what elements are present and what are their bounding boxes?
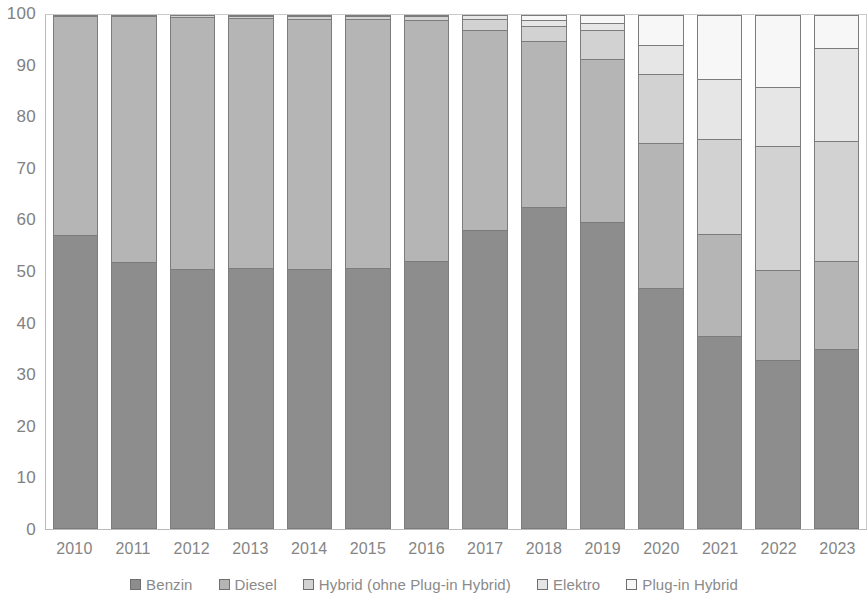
bar-segment[interactable] [170, 269, 216, 529]
bar-column[interactable] [638, 15, 684, 529]
bar-column[interactable] [404, 15, 450, 529]
bar-column[interactable] [228, 15, 274, 529]
bar-segment[interactable] [462, 30, 508, 230]
bar-segment[interactable] [697, 336, 743, 529]
stacked-bar[interactable] [521, 15, 567, 529]
bar-segment[interactable] [755, 87, 801, 147]
bar-segment[interactable] [53, 16, 99, 235]
bar-segment[interactable] [287, 269, 333, 529]
bar-segment[interactable] [521, 207, 567, 529]
bar-segment[interactable] [755, 146, 801, 270]
bar-segment[interactable] [697, 79, 743, 139]
legend-item[interactable]: Benzin [130, 576, 192, 593]
legend-item[interactable]: Diesel [219, 576, 277, 593]
bar-segment[interactable] [345, 19, 391, 268]
legend-swatch-icon [303, 579, 314, 590]
legend-item[interactable]: Elektro [537, 576, 600, 593]
bar-segment[interactable] [638, 74, 684, 143]
legend-item-label: Hybrid (ohne Plug-in Hybrid) [319, 576, 511, 593]
stacked-bar-chart: 0102030405060708090100 20102011201220132… [0, 0, 868, 600]
x-axis-tick-label: 2012 [169, 536, 215, 558]
bar-segment[interactable] [697, 139, 743, 234]
bar-segment[interactable] [111, 262, 157, 529]
bar-segment[interactable] [638, 15, 684, 45]
bar-segment[interactable] [755, 270, 801, 360]
plot-area [45, 14, 867, 530]
bar-segment[interactable] [814, 15, 860, 48]
bar-segment[interactable] [580, 30, 626, 58]
bar-segment[interactable] [462, 230, 508, 529]
bar-segment[interactable] [287, 19, 333, 270]
stacked-bar[interactable] [580, 15, 626, 529]
stacked-bar[interactable] [111, 15, 157, 529]
stacked-bar[interactable] [814, 15, 860, 529]
bar-segment[interactable] [53, 235, 99, 529]
y-axis-tick-label: 10 [16, 468, 36, 488]
bar-segment[interactable] [462, 19, 508, 30]
bar-segment[interactable] [345, 268, 391, 529]
bar-segment[interactable] [521, 41, 567, 208]
x-axis-tick-label: 2020 [639, 536, 685, 558]
y-axis-tick-label: 80 [16, 107, 36, 127]
stacked-bar[interactable] [287, 15, 333, 529]
x-axis: 2010201120122013201420152016201720182019… [45, 536, 867, 564]
bar-column[interactable] [814, 15, 860, 529]
y-axis-tick-label: 0 [26, 520, 36, 540]
y-axis-tick-label: 60 [16, 210, 36, 230]
bar-segment[interactable] [111, 16, 157, 262]
bar-segment[interactable] [755, 15, 801, 86]
bar-column[interactable] [53, 15, 99, 529]
bar-segment[interactable] [404, 20, 450, 261]
legend-item[interactable]: Hybrid (ohne Plug-in Hybrid) [303, 576, 511, 593]
bar-segment[interactable] [814, 261, 860, 349]
bar-column[interactable] [697, 15, 743, 529]
bar-segment[interactable] [228, 268, 274, 529]
bar-segment[interactable] [697, 234, 743, 336]
stacked-bar[interactable] [755, 15, 801, 529]
bar-segment[interactable] [638, 45, 684, 74]
bar-segment[interactable] [228, 18, 274, 268]
bar-segment[interactable] [580, 23, 626, 31]
stacked-bar[interactable] [404, 15, 450, 529]
bar-series-container [46, 15, 866, 529]
stacked-bar[interactable] [170, 15, 216, 529]
bar-column[interactable] [170, 15, 216, 529]
bar-segment[interactable] [814, 349, 860, 529]
legend-swatch-icon [130, 579, 141, 590]
y-axis-tick-label: 70 [16, 159, 36, 179]
bar-column[interactable] [111, 15, 157, 529]
bar-column[interactable] [462, 15, 508, 529]
x-axis-tick-label: 2021 [697, 536, 743, 558]
bar-segment[interactable] [170, 17, 216, 269]
stacked-bar[interactable] [228, 15, 274, 529]
bar-segment[interactable] [580, 59, 626, 222]
bar-segment[interactable] [638, 143, 684, 288]
bar-segment[interactable] [697, 15, 743, 79]
bar-column[interactable] [580, 15, 626, 529]
bar-column[interactable] [345, 15, 391, 529]
bar-column[interactable] [521, 15, 567, 529]
legend-swatch-icon [219, 579, 230, 590]
bar-segment[interactable] [814, 141, 860, 261]
legend-item[interactable]: Plug-in Hybrid [626, 576, 738, 593]
bar-segment[interactable] [580, 222, 626, 529]
bar-segment[interactable] [521, 26, 567, 41]
stacked-bar[interactable] [638, 15, 684, 529]
bar-column[interactable] [287, 15, 333, 529]
stacked-bar[interactable] [53, 15, 99, 529]
x-axis-tick-label: 2023 [815, 536, 861, 558]
bar-segment[interactable] [638, 288, 684, 529]
stacked-bar[interactable] [697, 15, 743, 529]
x-axis-tick-label: 2016 [404, 536, 450, 558]
bar-segment[interactable] [404, 261, 450, 529]
bar-segment[interactable] [755, 360, 801, 529]
stacked-bar[interactable] [345, 15, 391, 529]
stacked-bar[interactable] [462, 15, 508, 529]
bar-segment[interactable] [814, 48, 860, 141]
y-axis-tick-label: 30 [16, 365, 36, 385]
x-axis-tick-label: 2022 [756, 536, 802, 558]
bar-column[interactable] [755, 15, 801, 529]
bar-segment[interactable] [580, 15, 626, 23]
legend-swatch-icon [626, 579, 637, 590]
y-axis: 0102030405060708090100 [0, 0, 44, 535]
